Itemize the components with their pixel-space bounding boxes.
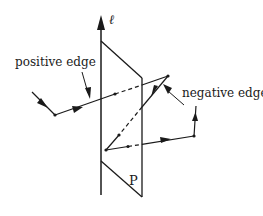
arrow-icon	[151, 85, 158, 97]
edge-path	[32, 76, 198, 150]
axis-label: ℓ	[109, 12, 115, 27]
arrow-icon	[72, 106, 83, 113]
pointer-arrow-icon	[163, 84, 172, 94]
positive-edge-label: positive edge	[15, 55, 96, 69]
diagram-canvas: ℓ positive edge	[0, 0, 263, 216]
axis-line	[97, 15, 105, 195]
plane-label: P	[129, 173, 138, 188]
negative-edge-label: negative edge	[182, 86, 263, 100]
pointer-arrow-icon	[85, 87, 91, 99]
vertex-dots	[53, 74, 195, 151]
axis-arrow-icon	[97, 15, 105, 30]
positive-edge-pointer	[82, 72, 91, 99]
negative-edge-pointer	[163, 84, 184, 105]
arrow-icon	[192, 112, 198, 121]
